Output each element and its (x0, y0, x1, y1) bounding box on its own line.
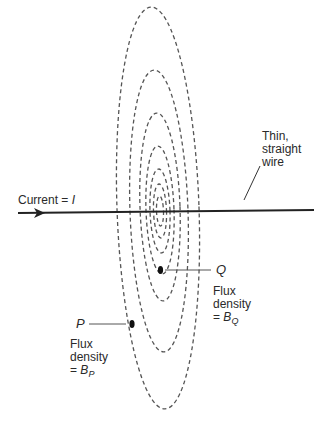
point-q-subscript: Q (231, 316, 238, 326)
field-lines (110, 6, 206, 411)
point-p-name: P (76, 317, 85, 330)
magnetic-field-diagram (0, 0, 328, 421)
point-q-flux-value: = BQ (213, 311, 251, 328)
wire-label-pointer (244, 166, 260, 200)
point-p-dot (129, 320, 134, 328)
point-p-eq: = (70, 363, 77, 377)
point-q-dot (158, 266, 163, 274)
current-label: Current = I (18, 194, 75, 207)
point-q-flux-label: Flux density = BQ (213, 285, 251, 328)
field-line-4 (144, 146, 176, 275)
wire-label-line3: wire (262, 156, 301, 169)
point-q-name: Q (216, 263, 226, 276)
current-symbol: I (72, 193, 75, 207)
point-p-flux-value: = BP (70, 364, 108, 381)
wire-label: Thin, straight wire (262, 130, 301, 169)
point-p-subscript: P (88, 369, 94, 379)
point-p-flux-label: Flux density = BP (70, 338, 108, 381)
point-q-eq: = (213, 310, 220, 324)
current-label-text: Current (18, 193, 58, 207)
current-equals: = (61, 193, 68, 207)
